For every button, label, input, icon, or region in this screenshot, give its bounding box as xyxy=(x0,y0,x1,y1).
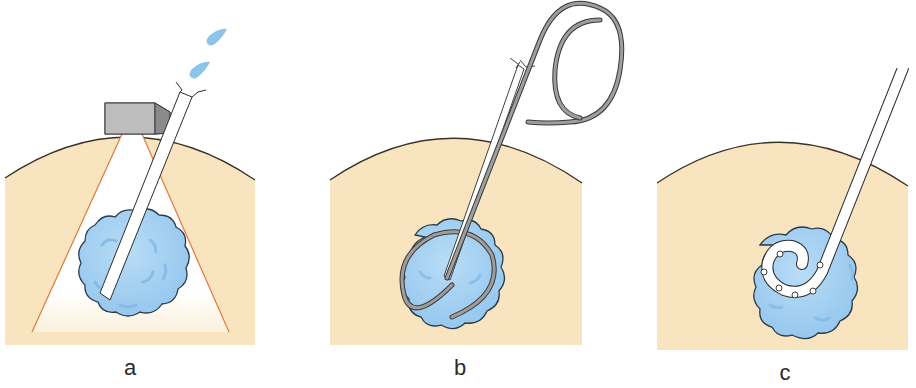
panel-label-a: a xyxy=(124,355,136,381)
panel-label-b: b xyxy=(454,355,466,381)
catheter-top-cut xyxy=(895,60,916,68)
panel-label-c: c xyxy=(780,360,791,386)
panel-b xyxy=(330,3,622,345)
droplet-icon xyxy=(190,62,210,79)
ultrasound-probe xyxy=(105,103,170,134)
panel-a xyxy=(5,29,255,345)
panel-c xyxy=(657,60,916,350)
droplet-icon xyxy=(207,29,227,46)
procedure-diagram xyxy=(0,0,916,388)
